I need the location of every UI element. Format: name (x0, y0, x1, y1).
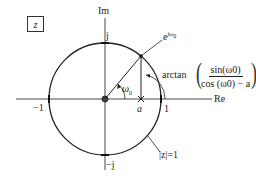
tick-label-one: 1 (164, 104, 169, 114)
z-plane-label: z (34, 19, 38, 30)
arctan-numerator: sin(ω0) (209, 64, 243, 77)
angle-symbol: ω (122, 83, 129, 94)
point-label: ejω0 (163, 31, 176, 42)
tick-label-neg-one: −1 (33, 103, 44, 113)
angle-arc-arctan-arrowhead (146, 74, 150, 78)
tick-label-neg-j: −j (106, 160, 114, 170)
tick-label-j: j (106, 31, 109, 41)
angle-label-omega: ω0 (122, 84, 132, 96)
point-label-exp-sub: 0 (173, 33, 176, 39)
point-leader-line (141, 40, 162, 56)
arctan-func: arctan (162, 70, 186, 80)
arctan-right-paren: ) (251, 58, 256, 88)
arctan-denominator: cos (ω0) − a (201, 77, 250, 89)
arctan-fraction: sin(ω0) cos (ω0) − a (201, 64, 250, 89)
pole-label-a: a (137, 104, 142, 114)
angle-sub: 0 (129, 90, 132, 96)
z-plane-label-box: z (27, 16, 44, 32)
imag-axis-label: Im (98, 6, 109, 16)
real-axis-label: Re (214, 94, 225, 104)
unit-circle-label: |z|=1 (159, 150, 178, 160)
